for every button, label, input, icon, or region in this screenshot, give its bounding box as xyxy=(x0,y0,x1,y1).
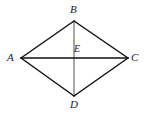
diagram-canvas xyxy=(0,0,146,114)
vertex-label-b: B xyxy=(70,4,77,15)
vertex-label-a: A xyxy=(7,52,14,63)
vertex-label-e: E xyxy=(74,43,80,54)
side-ab xyxy=(21,21,74,58)
side-da xyxy=(21,58,74,96)
vertex-label-d: D xyxy=(70,99,78,110)
side-bc xyxy=(74,21,128,58)
rhombus-diagram: A B C D E xyxy=(0,0,146,114)
vertex-label-c: C xyxy=(131,52,138,63)
side-cd xyxy=(74,58,128,96)
